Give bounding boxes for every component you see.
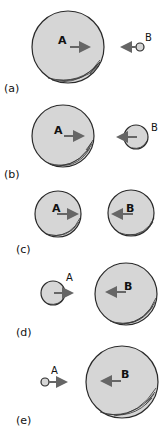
collision-diagram: A B (a) A B (b) A B (c) A B — [0, 0, 168, 437]
panel-label: (d) — [16, 326, 32, 339]
ball-b — [136, 43, 144, 51]
label-b: B — [124, 280, 132, 293]
label-a: A — [66, 272, 73, 283]
panel-label: (e) — [16, 414, 31, 427]
panel-label: (a) — [4, 82, 19, 95]
panel-e: A B (e) — [16, 346, 158, 427]
label-a: A — [52, 202, 61, 215]
ball-a — [32, 105, 94, 167]
label-b: B — [145, 32, 152, 43]
ball-a — [41, 378, 49, 386]
panel-b: A B (b) — [4, 105, 158, 181]
ball-b — [95, 263, 157, 325]
label-a: A — [58, 34, 67, 47]
ball-b — [86, 346, 158, 418]
panel-label: (c) — [16, 243, 31, 256]
panel-label: (b) — [4, 168, 20, 181]
panel-c: A B (c) — [16, 190, 154, 256]
label-b: B — [151, 122, 158, 133]
panel-d: A B (d) — [16, 263, 157, 339]
label-a: A — [51, 365, 58, 376]
label-b: B — [121, 368, 129, 381]
label-a: A — [54, 124, 63, 137]
panel-a: A B (a) — [4, 11, 152, 95]
ball-a — [32, 11, 104, 83]
label-b: B — [126, 202, 134, 215]
